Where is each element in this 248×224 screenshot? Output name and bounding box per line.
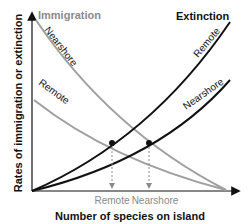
imm-remote-label: Remote <box>37 77 72 107</box>
remote-equilibrium-point <box>109 140 115 146</box>
y-axis-title: Rates of immigration or extinction <box>12 13 24 192</box>
imm-nearshore-label: Nearshore <box>42 24 80 68</box>
tick-nearshore: Nearshore <box>132 195 179 206</box>
x-axis-title: Number of species on island <box>55 210 205 222</box>
tick-remote: Remote <box>94 195 129 206</box>
immigration-label: Immigration <box>38 9 101 21</box>
island-biogeography-chart: Immigration Extinction Nearshore Remote … <box>0 0 248 224</box>
nearshore-equilibrium-point <box>146 140 152 146</box>
extinction-label: Extinction <box>176 10 229 22</box>
